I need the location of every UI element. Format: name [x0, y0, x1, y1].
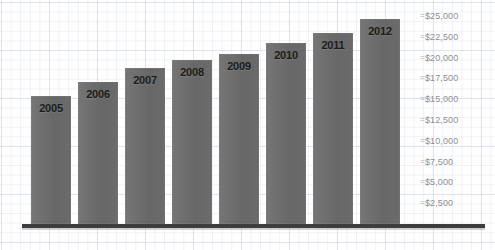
bar-label-2010: 2010: [266, 49, 306, 61]
bar-chart: 20052006200720082009201020112012 =$25,00…: [0, 0, 495, 250]
bar-2011[interactable]: 2011: [313, 33, 353, 224]
y-axis-tick-label: $15,000: [425, 93, 458, 105]
bar-sheen: [313, 33, 353, 224]
bar-sheen: [266, 43, 306, 224]
bar-2007[interactable]: 2007: [125, 68, 165, 224]
bar-sheen: [78, 82, 118, 224]
y-axis-tick-25000: =$25,000: [420, 10, 458, 22]
y-axis-tick-label: $12,500: [425, 114, 458, 126]
y-axis-tick-label: $20,000: [425, 52, 458, 64]
y-axis-tick-15000: =$15,000: [420, 93, 458, 105]
bar-sheen: [31, 96, 71, 224]
bar-label-2007: 2007: [125, 74, 165, 86]
bar-2009[interactable]: 2009: [219, 54, 259, 224]
bar-sheen: [360, 19, 400, 224]
bar-label-2006: 2006: [78, 88, 118, 100]
bar-2008[interactable]: 2008: [172, 60, 212, 224]
bar-label-2008: 2008: [172, 66, 212, 78]
bar-2006[interactable]: 2006: [78, 82, 118, 224]
y-axis-tick-22500: =$22,500: [420, 31, 458, 43]
y-axis-tick-17500: =$17,500: [420, 72, 458, 84]
y-axis-tick-label: $10,000: [425, 135, 458, 147]
y-axis-tick-label: $22,500: [425, 31, 458, 43]
bar-label-2009: 2009: [219, 60, 259, 72]
y-axis-labels: =$25,000=$22,500=$20,000=$17,500=$15,000…: [420, 16, 495, 224]
y-axis-tick-20000: =$20,000: [420, 52, 458, 64]
bar-2005[interactable]: 2005: [31, 96, 71, 224]
y-axis-tick-7500: =$7,500: [420, 156, 453, 168]
y-axis-tick-label: $7,500: [425, 156, 453, 168]
bar-sheen: [125, 68, 165, 224]
y-axis-tick-2500: =$2,500: [420, 197, 453, 209]
bar-label-2012: 2012: [360, 25, 400, 37]
y-axis-tick-5000: =$5,000: [420, 176, 453, 188]
y-axis-tick-label: $17,500: [425, 72, 458, 84]
y-axis-tick-12500: =$12,500: [420, 114, 458, 126]
bar-sheen: [172, 60, 212, 224]
x-axis-baseline-shadow: [22, 228, 485, 230]
y-axis-tick-label: $5,000: [425, 176, 453, 188]
bar-label-2005: 2005: [31, 102, 71, 114]
y-axis-tick-label: $25,000: [425, 10, 458, 22]
bar-2010[interactable]: 2010: [266, 43, 306, 224]
bar-2012[interactable]: 2012: [360, 19, 400, 224]
bar-sheen: [219, 54, 259, 224]
plot-area: 20052006200720082009201020112012: [25, 16, 415, 224]
y-axis-tick-10000: =$10,000: [420, 135, 458, 147]
bar-label-2011: 2011: [313, 39, 353, 51]
y-axis-tick-label: $2,500: [425, 197, 453, 209]
